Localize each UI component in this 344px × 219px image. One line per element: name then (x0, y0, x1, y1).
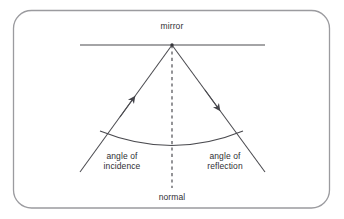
reflection-diagram-figure: mirror angle of incidence angle of refle… (0, 0, 344, 219)
incidence-point (170, 43, 173, 46)
angle-of-incidence-label: angle of incidence (82, 151, 162, 171)
angle-of-reflection-label: angle of reflection (183, 151, 267, 171)
normal-label: normal (0, 192, 344, 202)
diagram-canvas (0, 0, 344, 219)
mirror-label: mirror (0, 21, 344, 31)
